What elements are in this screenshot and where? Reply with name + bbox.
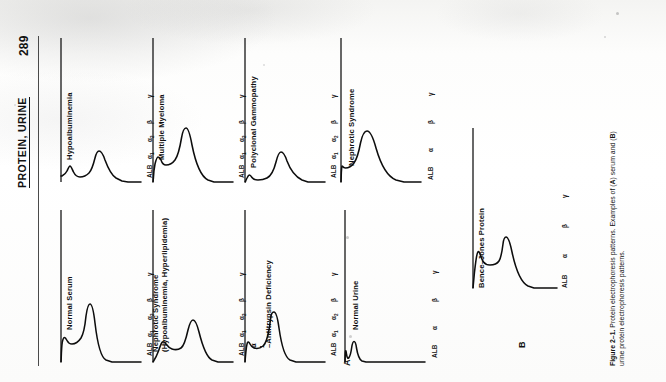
axis-label-alpha: α [431, 326, 439, 330]
axis-label-alb: ALB [330, 343, 338, 356]
chart-nephrotic-syndrome-urine [336, 30, 422, 190]
chart-polyclonal-gammopathy [240, 30, 326, 190]
figure-caption: Figure 2–1. Protein electrophoresis patt… [608, 26, 627, 366]
header-rule [38, 36, 39, 366]
axis-label-alpha: α [427, 148, 435, 152]
axis-label-alb: ALB [561, 275, 569, 288]
chart-multiple-myeloma [148, 30, 234, 190]
axis-label-beta: β [330, 298, 338, 302]
figure-caption-line2: urine protein electrophoresis patterns. [617, 26, 626, 366]
axis-label-gamma: γ [561, 194, 569, 198]
axis-label-alpha2: α2 [330, 313, 340, 320]
scan-speck [604, 36, 606, 38]
chart-normal-urine [340, 200, 426, 368]
axis-label-gamma: γ [427, 92, 435, 96]
chart-bence-jones-protein [468, 118, 558, 294]
running-head: PROTEIN, URINE [16, 97, 30, 188]
figure-caption-line1-text: Protein electrophoresis patterns. Exampl… [609, 131, 616, 329]
figure-caption-line1: Figure 2–1. Protein electrophoresis patt… [608, 26, 617, 366]
axis-label-beta: β [561, 224, 569, 228]
axis-label-alb: ALB [427, 167, 435, 180]
chart-alpha1-antitrypsin-deficiency [240, 200, 326, 368]
axis-label-gamma: γ [330, 272, 338, 276]
section-label-b: B [517, 342, 528, 349]
chart-normal-serum [56, 200, 142, 368]
page-number: 289 [17, 35, 31, 56]
axis-label-alb: ALB [431, 345, 439, 358]
axis-label-alpha1: α1 [330, 330, 340, 337]
scan-speck [616, 12, 619, 15]
chart-nephrotic-syndrome-serum [148, 200, 234, 368]
axis-label-gamma: γ [431, 270, 439, 274]
axis-label-alpha: α [561, 254, 569, 258]
chart-hypoalbuminemia [56, 30, 142, 190]
figure-caption-label: Figure 2–1. [609, 330, 616, 366]
axis-label-beta: β [427, 120, 435, 124]
axis-label-beta: β [431, 298, 439, 302]
